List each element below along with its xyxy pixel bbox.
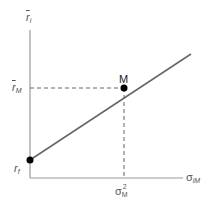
market-variance-main: σ xyxy=(115,185,122,197)
risk-free-sub: f xyxy=(18,168,20,175)
market-variance-tick-label: σM2 xyxy=(115,186,132,198)
risk-free-tick-label: rf xyxy=(14,163,20,175)
diagram-canvas xyxy=(0,0,210,206)
y-axis-label-sub: i xyxy=(30,17,32,24)
market-return-tick-label: rM xyxy=(12,82,22,94)
security-market-line xyxy=(30,54,191,160)
market-variance-sub: M xyxy=(122,191,128,198)
x-axis-label-main: σ xyxy=(186,171,193,183)
x-axis-label: σiM xyxy=(186,172,200,184)
market-portfolio-point xyxy=(121,85,128,92)
market-return-sub: M xyxy=(16,87,22,94)
market-variance-sup: 2 xyxy=(123,183,127,190)
y-axis-label: ri xyxy=(26,12,31,24)
market-portfolio-label: M xyxy=(119,74,128,85)
x-axis-label-sub: iM xyxy=(193,177,200,184)
risk-free-point xyxy=(27,157,34,164)
